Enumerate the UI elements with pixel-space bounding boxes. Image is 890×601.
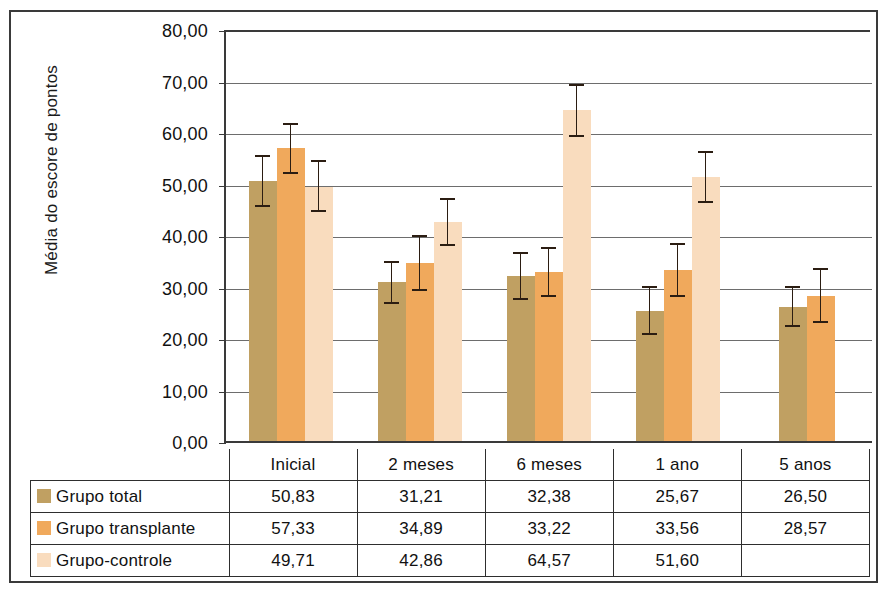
bar-slot [277,31,305,443]
bar-slot [378,31,406,443]
y-tick-mark [219,443,226,444]
bar[interactable] [305,187,333,443]
data-table-container: Inicial2 meses6 meses1 ano5 anosGrupo to… [30,449,870,577]
column-header: 5 anos [741,449,869,481]
error-bar [548,247,549,296]
bar-slot [305,31,333,443]
bar-group [355,31,484,443]
table-header-row: Inicial2 meses6 meses1 ano5 anos [31,449,870,481]
table-cell: 51,60 [613,545,741,577]
error-bar [576,84,577,138]
error-bar [705,151,706,204]
error-bar [447,198,448,246]
error-bar [520,252,521,299]
y-tick-label: 20,00 [162,330,208,351]
legend-label-text: Grupo total [56,487,142,506]
error-bar [391,261,392,304]
bar-group-bars [614,31,743,443]
legend-color-swatch [37,489,51,503]
y-tick-mark [219,340,226,341]
bar-slot [779,31,807,443]
y-tick-label: 30,00 [162,278,208,299]
bar[interactable] [507,276,535,443]
legend-row-label: Grupo transplante [31,513,230,545]
y-tick-mark [219,289,226,290]
bar-slot [563,31,591,443]
y-tick-mark [219,186,226,187]
error-bar [649,286,650,335]
y-tick-label: 40,00 [162,227,208,248]
bar-slot [535,31,563,443]
chart-page: Média do escore de pontos 0,0010,0020,00… [0,0,890,601]
bar-group-bars [484,31,613,443]
plot-area [224,31,870,443]
bar[interactable] [535,272,563,443]
table-cell: 34,89 [357,513,485,545]
table-cell: 49,71 [229,545,357,577]
error-bar [677,243,678,297]
table-row: Grupo total50,8331,2132,3825,6726,50 [31,481,870,513]
table-cell: 50,83 [229,481,357,513]
error-bar [419,235,420,291]
y-axis-tick-labels: 0,0010,0020,0030,0040,0050,0060,0070,008… [120,31,216,443]
bar[interactable] [563,110,591,443]
table-cell: 33,56 [613,513,741,545]
error-bar [792,286,793,327]
bar-groups [226,31,872,443]
bar-group [484,31,613,443]
error-bar [820,268,821,323]
table-cell: 57,33 [229,513,357,545]
column-header: Inicial [229,449,357,481]
bar[interactable] [378,282,406,443]
y-tick-mark [219,83,226,84]
table-cell: 32,38 [485,481,613,513]
legend-row-label: Grupo total [31,481,230,513]
bar-group-bars [226,31,355,443]
bar-slot [692,31,720,443]
table-cell: 28,57 [741,513,869,545]
bar[interactable] [692,177,720,443]
bar[interactable] [807,296,835,443]
legend-row-label: Grupo-controle [31,545,230,577]
data-table: Inicial2 meses6 meses1 ano5 anosGrupo to… [30,449,870,577]
legend-label-text: Grupo transplante [56,519,195,538]
error-bar [262,155,263,207]
table-cell: 42,86 [357,545,485,577]
table-row: Grupo transplante57,3334,8933,2233,5628,… [31,513,870,545]
y-tick-label: 70,00 [162,72,208,93]
y-tick-label: 80,00 [162,21,208,42]
bar-group-bars [743,31,872,443]
chart-area: Média do escore de pontos 0,0010,0020,00… [0,0,890,447]
bar-slot [507,31,535,443]
bar-slot [406,31,434,443]
bar-group [743,31,872,443]
bar-group [614,31,743,443]
column-header: 2 meses [357,449,485,481]
bar-slot [664,31,692,443]
table-row: Grupo-controle49,7142,8664,5751,60 [31,545,870,577]
legend-color-swatch [37,553,51,567]
table-cell: 26,50 [741,481,869,513]
bar[interactable] [434,222,462,443]
table-cell: 25,67 [613,481,741,513]
y-tick-mark [219,237,226,238]
table-corner-cell [31,449,230,481]
error-bar [318,160,319,212]
legend-label-text: Grupo-controle [56,551,172,570]
y-tick-label: 60,00 [162,124,208,145]
bar-slot [434,31,462,443]
y-tick-label: 50,00 [162,175,208,196]
bar[interactable] [249,181,277,443]
bar-group-bars [355,31,484,443]
column-header: 1 ano [613,449,741,481]
y-tick-label: 10,00 [162,381,208,402]
legend-color-swatch [37,521,51,535]
y-tick-mark [219,31,226,32]
bar[interactable] [636,311,664,443]
x-axis-baseline [226,441,872,443]
bar-slot [807,31,835,443]
y-tick-mark [219,392,226,393]
table-cell: 31,21 [357,481,485,513]
y-tick-mark [219,134,226,135]
bar[interactable] [277,148,305,443]
